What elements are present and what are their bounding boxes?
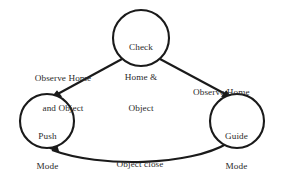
- node-label-guide-mode: Guide Mode: [208, 110, 265, 179]
- edge-label-line: and Object: [15, 103, 111, 113]
- edge-label-line: Object close: [92, 159, 188, 169]
- node-label-check-home-object: Check Home & Object: [112, 21, 170, 134]
- node-label-line: Mode: [208, 161, 265, 171]
- node-label-line: Guide: [208, 131, 265, 141]
- edge-label-check-to-push: Observe Home and Object: [15, 52, 111, 134]
- node-label-line: Mode: [19, 161, 76, 171]
- node-label-line: Home &: [112, 72, 170, 82]
- edge-label-line: Observe Home: [15, 73, 111, 83]
- edge-label-check-to-guide: Observe Home: [193, 66, 277, 117]
- node-label-line: Check: [112, 42, 170, 52]
- edge-label-guide-to-push: Object close to the guide: [92, 138, 188, 179]
- node-label-line: Object: [112, 103, 170, 113]
- edge-label-line: Observe Home: [193, 87, 277, 97]
- state-diagram: Check Home & Object Push Mode Guide Mode…: [0, 0, 285, 179]
